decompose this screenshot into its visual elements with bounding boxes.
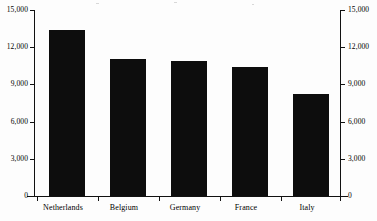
y-tick-right [341,122,345,123]
x-axis-line [27,196,348,197]
bar-netherlands [49,30,85,196]
x-axis-category-label-italy: Italy [267,203,347,212]
x-tick [159,197,160,201]
y-axis-right-label: 9,000 [348,80,365,88]
x-tick [98,197,99,201]
y-tick-right [341,47,345,48]
y-axis-right-label: 12,000 [348,43,369,51]
y-axis-left-label: 12,000 [7,43,28,51]
x-tick [220,197,221,201]
bar-france [232,67,268,196]
y-tick-left [30,196,34,197]
x-tick [37,197,38,201]
bar-chart: 15,000 12,000 9,000 6,000 3,000 0 15,000… [0,0,377,221]
y-tick-right [341,84,345,85]
scan-speck [174,2,177,3]
y-axis-right-label: 0 [348,192,352,200]
scan-speck [252,4,254,5]
bar-italy [293,94,329,196]
y-tick-right [341,10,345,11]
y-axis-right-line [340,10,341,197]
scan-speck [96,3,99,4]
y-axis-left-label: 15,000 [7,6,28,14]
y-axis-right-label: 15,000 [348,6,369,14]
y-axis-right-label: 3,000 [348,155,365,163]
y-tick-right [341,159,345,160]
y-axis-left-label: 3,000 [11,155,28,163]
bar-germany [171,61,207,196]
y-axis-left-label: 9,000 [11,80,28,88]
x-tick [340,197,341,201]
y-axis-right-label: 6,000 [348,118,365,126]
y-tick-right [341,196,345,197]
x-tick [281,197,282,201]
y-axis-left-label: 6,000 [11,118,28,126]
bar-belgium [110,59,146,196]
y-axis-left-label: 0 [24,192,28,200]
plot-area [34,10,340,196]
